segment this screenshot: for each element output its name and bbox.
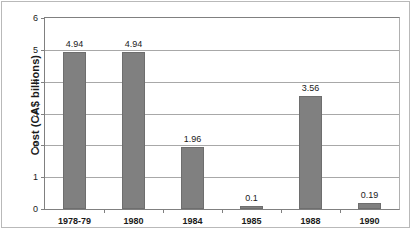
gridline xyxy=(45,82,399,83)
bar xyxy=(181,147,204,209)
bar xyxy=(299,96,322,209)
y-axis-tick-mark xyxy=(41,82,45,83)
y-axis-tick-mark xyxy=(41,145,45,146)
bar-value-label: 3.56 xyxy=(302,83,320,93)
y-axis-tick-mark xyxy=(41,114,45,115)
x-axis-category-label: 1978-79 xyxy=(58,216,91,226)
bar-value-label: 1.96 xyxy=(184,134,202,144)
plot-area: 0123456 1978-7919801984198519881990 4.94… xyxy=(44,17,400,210)
x-axis-tick-mark xyxy=(222,209,223,213)
y-axis-tick-label: 6 xyxy=(33,13,38,23)
y-axis-tick-mark xyxy=(41,18,45,19)
x-axis-tick-mark xyxy=(340,209,341,213)
x-axis-category-label: 1988 xyxy=(300,216,320,226)
bar-chart-figure: Cost (CA$ billions) 0123456 1978-7919801… xyxy=(0,0,415,237)
gridline xyxy=(45,177,399,178)
chart-frame: Cost (CA$ billions) 0123456 1978-7919801… xyxy=(1,1,410,228)
x-axis-category-label: 1990 xyxy=(359,216,379,226)
gridline xyxy=(45,114,399,115)
gridline xyxy=(45,145,399,146)
y-axis-tick-label: 4 xyxy=(33,77,38,87)
y-axis-tick-mark xyxy=(41,50,45,51)
y-axis-tick-label: 0 xyxy=(33,204,38,214)
bar-value-label: 4.94 xyxy=(66,39,84,49)
bar-value-label: 4.94 xyxy=(125,39,143,49)
gridline xyxy=(45,50,399,51)
y-axis-tick-label: 5 xyxy=(33,45,38,55)
y-axis-tick-label: 1 xyxy=(33,172,38,182)
y-axis-tick-mark xyxy=(41,209,45,210)
bar xyxy=(63,52,86,209)
bar xyxy=(240,206,263,209)
x-axis-tick-mark xyxy=(104,209,105,213)
x-axis-tick-mark xyxy=(281,209,282,213)
x-axis-category-label: 1984 xyxy=(182,216,202,226)
x-axis-category-label: 1985 xyxy=(241,216,261,226)
y-axis-tick-mark xyxy=(41,177,45,178)
x-axis-category-label: 1980 xyxy=(123,216,143,226)
bar-value-label: 0.19 xyxy=(361,190,379,200)
bar-value-label: 0.1 xyxy=(245,193,258,203)
bar xyxy=(122,52,145,209)
x-axis-tick-mark xyxy=(163,209,164,213)
y-axis-tick-label: 3 xyxy=(33,109,38,119)
y-axis-tick-label: 2 xyxy=(33,140,38,150)
bar xyxy=(358,203,381,209)
